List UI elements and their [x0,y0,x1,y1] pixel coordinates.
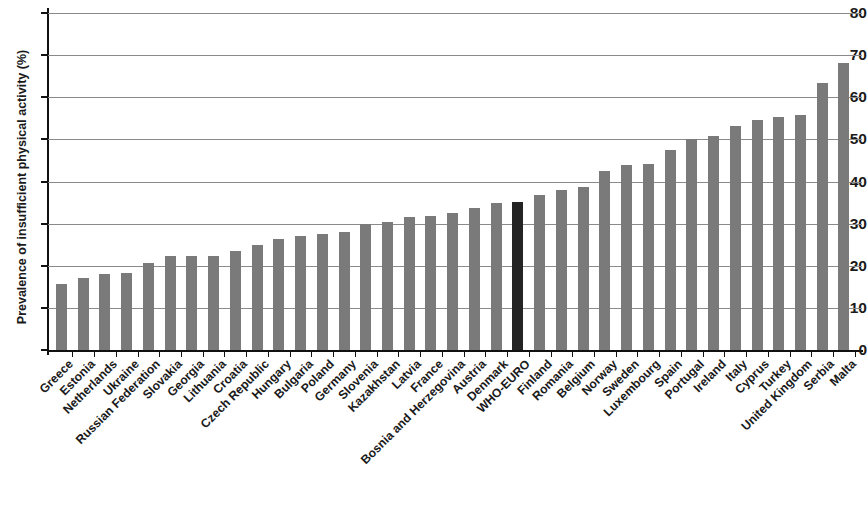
bar [838,63,849,350]
bar [78,278,89,350]
gridline-60 [48,97,862,98]
bar [556,190,567,350]
bar [491,203,502,350]
bar [469,208,480,350]
x-tick-mark [551,352,552,357]
x-tick-mark [333,352,334,357]
bar [121,273,132,350]
bar [730,126,741,350]
x-tick-mark [529,352,530,357]
y-tick-mark [41,307,48,309]
x-tick-mark [290,352,291,357]
x-tick-mark [159,352,160,357]
x-tick-mark [420,352,421,357]
x-tick-mark [681,352,682,357]
x-tick-mark [398,352,399,357]
bar [643,164,654,350]
bar [339,232,350,350]
bar [447,213,458,350]
x-tick-mark [203,352,204,357]
y-axis-title: Prevalence of insufficient physical acti… [15,17,29,357]
bar [817,83,828,350]
y-tick-mark [41,138,48,140]
y-tick-mark [41,54,48,56]
bar [534,195,545,350]
x-tick-mark [724,352,725,357]
bar [512,202,523,350]
y-tick-mark [41,181,48,183]
bar [295,236,306,350]
bar [752,120,763,350]
y-tick-mark [41,265,48,267]
x-tick-mark [746,352,747,357]
x-tick-mark [72,352,73,357]
bar-chart: Prevalence of insufficient physical acti… [0,0,867,511]
x-tick-mark [355,352,356,357]
x-tick-mark [659,352,660,357]
bar [404,217,415,350]
x-tick-mark [246,352,247,357]
bar [795,115,806,350]
bar [686,139,697,350]
bar [773,117,784,350]
bar [186,256,197,350]
x-axis-line [47,350,863,352]
bar [708,136,719,350]
x-tick-mark [224,352,225,357]
y-tick-mark [41,12,48,14]
bar [99,274,110,350]
x-tick-mark [138,352,139,357]
bar [165,256,176,350]
x-tick-mark [768,352,769,357]
plot-area [48,13,862,350]
y-tick-mark [41,96,48,98]
x-tick-mark [442,352,443,357]
x-tick-mark [572,352,573,357]
gridline-70 [48,55,862,56]
x-tick-mark [507,352,508,357]
bar [382,222,393,350]
x-tick-mark [790,352,791,357]
x-tick-mark [181,352,182,357]
x-tick-mark [94,352,95,357]
bar [56,284,67,350]
bar [208,256,219,350]
x-tick-mark [485,352,486,357]
x-tick-mark [594,352,595,357]
bar [230,251,241,350]
x-tick-mark [377,352,378,357]
bar [578,187,589,350]
gridline-80 [48,13,862,14]
bar [360,224,371,350]
x-tick-mark [464,352,465,357]
bar [599,171,610,350]
x-tick-mark [703,352,704,357]
x-tick-mark [811,352,812,357]
bar [425,216,436,350]
x-tick-mark [116,352,117,357]
bar [621,165,632,350]
x-tick-mark [268,352,269,357]
y-tick-mark [41,223,48,225]
bar [273,239,284,350]
bar [143,263,154,350]
x-tick-mark [637,352,638,357]
x-tick-mark [616,352,617,357]
x-tick-mark [855,352,856,357]
bar [317,234,328,350]
y-tick-mark [41,349,48,351]
x-tick-mark [311,352,312,357]
bar [665,150,676,350]
x-tick-mark [833,352,834,357]
bar [252,245,263,350]
